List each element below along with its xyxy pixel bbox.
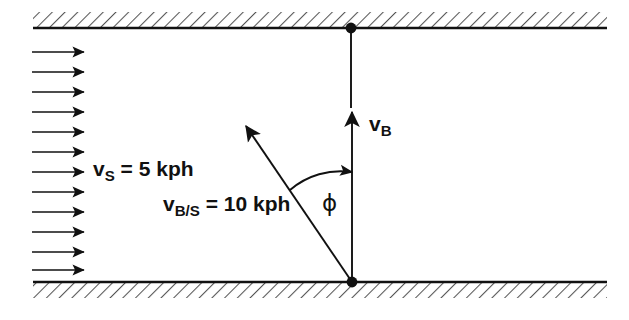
relative-velocity-value: = 10 kph	[200, 192, 290, 215]
relative-velocity-label: vB/S = 10 kph	[163, 193, 290, 214]
boat-velocity-label: vB	[369, 113, 392, 134]
end-point-dot	[346, 23, 357, 34]
bottom-wall	[33, 282, 607, 298]
stream-velocity-symbol: v	[93, 157, 105, 180]
start-point-dot	[347, 277, 358, 288]
stream-velocity-label: vS = 5 kph	[93, 158, 194, 179]
stream-velocity-subscript: S	[105, 167, 115, 184]
bottom-wall-hatch	[33, 282, 607, 298]
angle-label: ϕ	[322, 192, 337, 215]
relative-velocity-symbol: v	[163, 192, 175, 215]
boat-velocity-subscript: B	[381, 122, 392, 139]
angle-arc	[290, 171, 352, 190]
relative-velocity-subscript: B/S	[175, 202, 200, 219]
top-wall	[33, 12, 607, 28]
stream-velocity-value: = 5 kph	[115, 157, 194, 180]
top-wall-hatch	[33, 12, 607, 28]
boat-velocity-symbol: v	[369, 112, 381, 135]
velocity-diagram: vS = 5 kph vB/S = 10 kph vB ϕ	[0, 0, 629, 320]
stream-flow-arrows	[32, 52, 84, 270]
